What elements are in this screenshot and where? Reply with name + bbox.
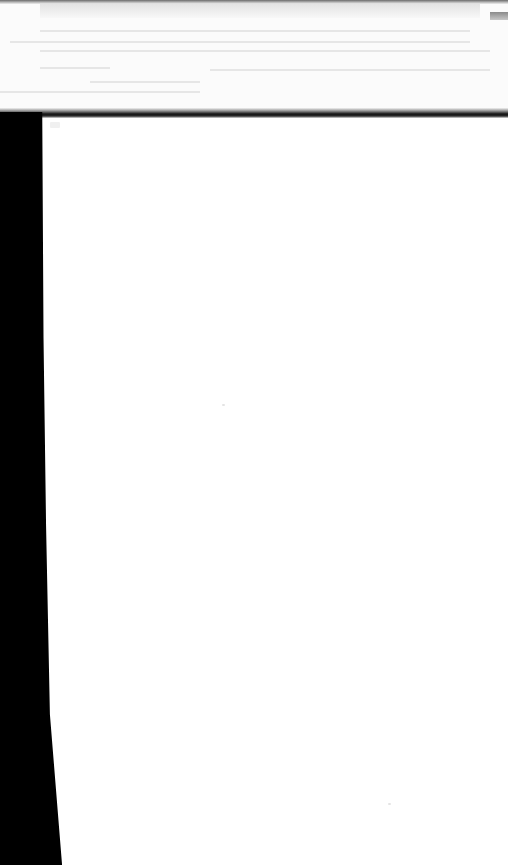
blank-page xyxy=(42,118,508,865)
bleed-through-line xyxy=(10,41,470,43)
scan-speck xyxy=(388,803,391,805)
page-fold-line xyxy=(0,108,508,118)
scan-edge-shade xyxy=(40,4,480,18)
corner-mark xyxy=(490,12,508,20)
bleed-through-line xyxy=(40,30,470,32)
bleed-through-line xyxy=(210,69,490,71)
bleed-through-line xyxy=(40,67,110,69)
previous-page-strip xyxy=(0,0,508,112)
scan-speck xyxy=(222,404,225,406)
scan-speck xyxy=(50,122,60,128)
bleed-through-line xyxy=(90,81,200,83)
bleed-through-line xyxy=(0,91,200,93)
bleed-through-line xyxy=(40,50,490,52)
